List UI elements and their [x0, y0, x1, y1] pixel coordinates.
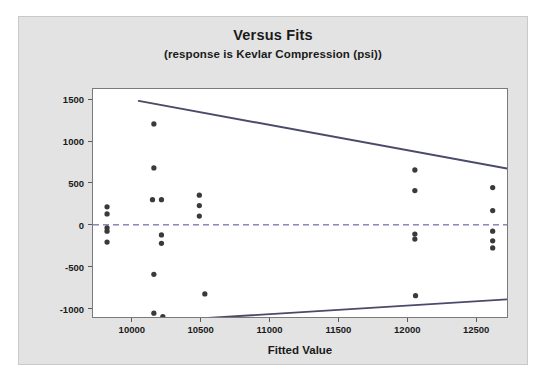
data-point — [490, 238, 495, 243]
data-point — [104, 229, 109, 234]
data-point — [202, 291, 207, 296]
data-point — [151, 121, 156, 126]
scatter-plot-canvas — [93, 89, 507, 317]
data-point — [412, 236, 417, 241]
data-point — [197, 203, 202, 208]
x-tick-mark — [407, 318, 408, 322]
data-point — [412, 188, 417, 193]
x-tick-mark — [131, 318, 132, 322]
data-point — [160, 314, 165, 317]
x-tick-label: 12500 — [446, 324, 506, 335]
chart-subtitle: (response is Kevlar Compression (psi)) — [18, 46, 528, 62]
data-point — [412, 231, 417, 236]
data-point — [412, 167, 417, 172]
x-tick-mark — [338, 318, 339, 322]
x-tick-mark — [476, 318, 477, 322]
data-point — [151, 272, 156, 277]
data-point — [150, 197, 155, 202]
data-point — [151, 165, 156, 170]
x-tick-label: 10500 — [171, 324, 231, 335]
data-point — [151, 311, 156, 316]
data-point — [159, 232, 164, 237]
plot-area — [92, 88, 508, 318]
lower-bound-line — [149, 299, 507, 317]
y-tick-label: 0 — [40, 219, 84, 230]
x-axis-label: Fitted Value — [92, 344, 508, 356]
x-tick-mark — [269, 318, 270, 322]
data-point — [490, 245, 495, 250]
y-tick-label: 1000 — [40, 136, 84, 147]
data-point — [490, 229, 495, 234]
data-point — [104, 239, 109, 244]
y-tick-mark — [88, 224, 92, 225]
x-tick-mark — [200, 318, 201, 322]
x-tick-label: 11000 — [240, 324, 300, 335]
data-point — [197, 192, 202, 197]
data-point — [159, 241, 164, 246]
y-tick-mark — [88, 99, 92, 100]
y-tick-mark — [88, 308, 92, 309]
upper-bound-line — [139, 101, 507, 169]
data-point — [413, 293, 418, 298]
data-point — [197, 213, 202, 218]
y-tick-label: 500 — [40, 177, 84, 188]
chart-title-block: Versus Fits (response is Kevlar Compress… — [18, 26, 528, 62]
x-tick-label: 10000 — [102, 324, 162, 335]
data-point — [104, 211, 109, 216]
y-tick-mark — [88, 182, 92, 183]
y-tick-label: -1000 — [40, 303, 84, 314]
data-point — [159, 197, 164, 202]
data-point — [490, 208, 495, 213]
data-point — [104, 204, 109, 209]
data-point — [490, 185, 495, 190]
x-tick-label: 12000 — [377, 324, 437, 335]
chart-screenshot: Versus Fits (response is Kevlar Compress… — [0, 0, 546, 388]
y-tick-label: 1500 — [40, 94, 84, 105]
y-tick-mark — [88, 141, 92, 142]
page-title: Versus Fits — [18, 26, 528, 44]
y-tick-mark — [88, 266, 92, 267]
x-tick-label: 11500 — [308, 324, 368, 335]
y-tick-label: -500 — [40, 261, 84, 272]
